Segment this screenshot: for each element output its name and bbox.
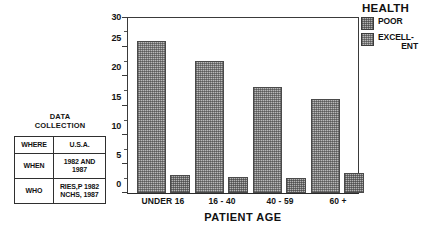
data-collection-title: DATA COLLECTION xyxy=(14,112,106,130)
bar-excellent-16-40 xyxy=(195,61,224,193)
bar-poor-60-plus xyxy=(344,173,364,193)
legend-swatch-excellent xyxy=(361,33,374,46)
legend-label-poor-line1: POOR xyxy=(378,17,418,26)
table-cell-value-when-line2: 1987 xyxy=(55,166,104,174)
legend-label-excellent: EXCELL- ENT xyxy=(378,33,418,50)
y-tick-label: 30 xyxy=(111,13,121,22)
table-cell-value-who-line2: NCHS, 1987 xyxy=(55,191,104,199)
y-tick-label: 25 xyxy=(111,34,121,43)
x-axis-title: PATIENT AGE xyxy=(127,211,359,223)
bars-layer xyxy=(127,17,359,193)
legend: HEALTH POOR EXCELL- ENT xyxy=(361,2,423,53)
table-row: WHEN 1982 AND 1987 xyxy=(15,154,106,179)
data-collection-table: WHERE U.S.A. WHEN 1982 AND 1987 WHO RIES… xyxy=(14,136,106,204)
bar-excellent-40-59 xyxy=(253,87,282,193)
table-row: WHERE U.S.A. xyxy=(15,137,106,154)
legend-label-excellent-line2: ENT xyxy=(378,42,418,51)
table-cell-key-who: WHO xyxy=(15,179,54,204)
table-cell-key-where: WHERE xyxy=(15,137,54,154)
legend-item-poor: POOR xyxy=(361,17,423,30)
y-tick-label: 5 xyxy=(116,151,121,160)
data-collection-panel: DATA COLLECTION WHERE U.S.A. WHEN 1982 A… xyxy=(14,112,106,204)
legend-label-poor: POOR xyxy=(378,17,418,26)
table-cell-value-when: 1982 AND 1987 xyxy=(54,154,106,179)
y-tick-label: 10 xyxy=(111,122,121,131)
bar-poor-40-59 xyxy=(286,178,306,193)
bar-poor-16-40 xyxy=(228,177,248,193)
table-cell-value-when-line1: 1982 AND xyxy=(55,158,104,166)
data-collection-title-line2: COLLECTION xyxy=(14,121,106,130)
y-tick-label: 20 xyxy=(111,63,121,72)
table-cell-value-who: RIES,P 1982 NCHS, 1987 xyxy=(54,179,106,204)
x-axis: UNDER 16 16 - 40 40 - 59 60 + xyxy=(127,196,359,210)
bar-excellent-under-16 xyxy=(137,41,166,194)
legend-item-excellent: EXCELL- ENT xyxy=(361,33,423,50)
legend-title: HEALTH xyxy=(362,2,423,14)
table-cell-value-who-line1: RIES,P 1982 xyxy=(55,183,104,191)
bar-excellent-60-plus xyxy=(311,99,340,193)
table-cell-value-where: U.S.A. xyxy=(54,137,106,154)
bar-poor-under-16 xyxy=(170,175,190,193)
data-collection-title-line1: DATA xyxy=(14,112,106,121)
table-cell-key-when: WHEN xyxy=(15,154,54,179)
x-tick-label-60-plus: 60 + xyxy=(298,196,378,206)
y-tick-label: 0 xyxy=(116,180,121,189)
table-cell-value-where-line1: U.S.A. xyxy=(55,141,104,149)
chart-page: 30 25 20 15 10 5 0 xyxy=(0,0,423,233)
legend-swatch-poor xyxy=(361,17,374,30)
table-row: WHO RIES,P 1982 NCHS, 1987 xyxy=(15,179,106,204)
y-tick-label: 15 xyxy=(111,93,121,102)
